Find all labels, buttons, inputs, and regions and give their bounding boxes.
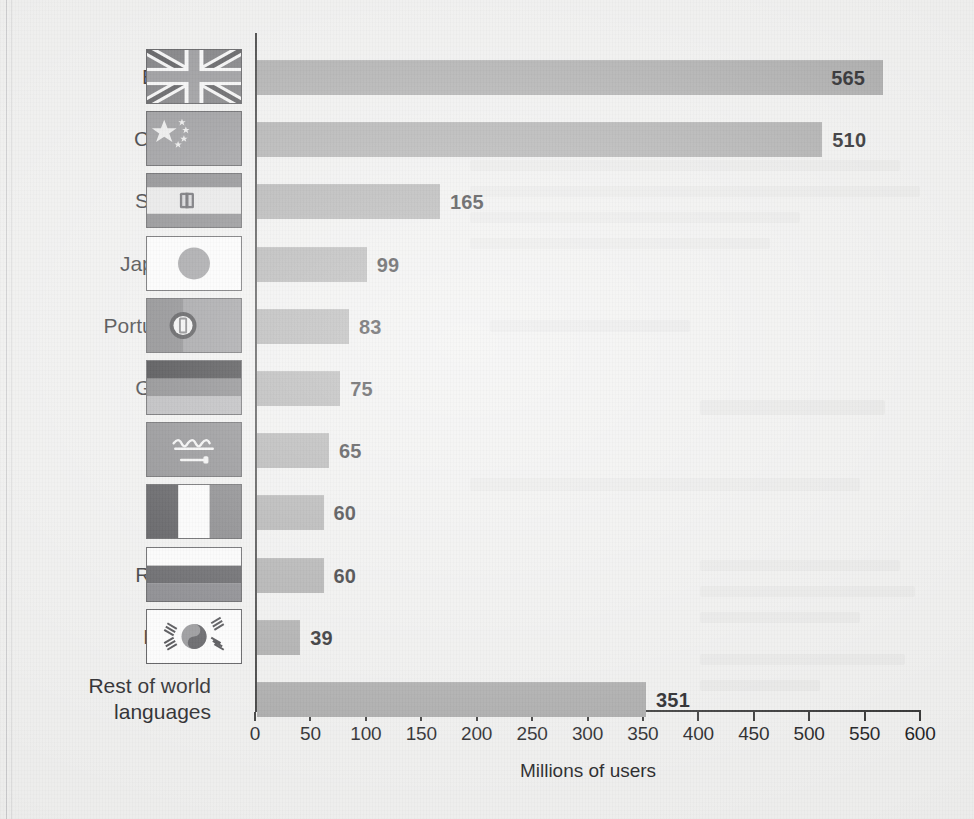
bar[interactable] [257,184,440,219]
bar-row: Rest of world languages351 [0,671,974,727]
bar[interactable] [257,309,349,344]
bar[interactable] [257,682,646,717]
flag-germany-icon [146,360,242,415]
bar-row: Portuguese 83 [0,298,974,354]
bar[interactable] [257,371,340,406]
flag-france-icon [146,484,242,539]
bar-value-label: 60 [334,565,357,588]
bar-row: French 60 [0,484,974,540]
bar[interactable] [257,60,883,95]
bar-row: Korean 39 [0,609,974,665]
bar-row: Japanese 99 [0,236,974,292]
bar-value-label: 39 [310,627,333,650]
bar-value-label: 565 [831,67,865,90]
bar-value-label: 351 [656,689,690,712]
bar[interactable] [257,495,324,530]
bar-value-label: 60 [334,502,357,525]
flag-russia-icon [146,547,242,602]
bar[interactable] [257,122,822,157]
bar[interactable] [257,620,300,655]
flag-portugal-icon [146,298,242,353]
flag-japan-icon [146,236,242,291]
bar-row: Chinese 510 [0,111,974,167]
flag-united-kingdom-icon [146,49,242,104]
bar-value-label: 65 [339,440,362,463]
bar-value-label: 99 [377,254,400,277]
x-axis-title: Millions of users [255,760,921,782]
bar-row: English 565 [0,49,974,105]
flag-saudi-arabia-icon [146,422,242,477]
bar[interactable] [257,247,367,282]
flag-spain-icon [146,173,242,228]
bar-value-label: 83 [359,316,382,339]
chart-page: 050100150200250300350400450500550600 Eng… [0,0,974,819]
category-label: Rest of world languages [0,673,211,725]
bar-row: Arabic 65 [0,422,974,478]
bar-row: Russian 60 [0,547,974,603]
bar[interactable] [257,433,329,468]
bar-value-label: 510 [832,129,866,152]
bar-value-label: 75 [350,378,373,401]
flag-south-korea-icon [146,609,242,664]
bar[interactable] [257,558,324,593]
flag-china-icon [146,111,242,166]
bar-value-label: 165 [450,191,484,214]
bar-row: German 75 [0,360,974,416]
bar-chart: 050100150200250300350400450500550600 Eng… [0,0,974,819]
bar-row: Spanish 165 [0,173,974,229]
